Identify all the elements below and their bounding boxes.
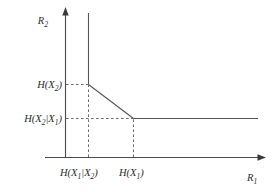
x-axis-label-sub: 1 bbox=[253, 177, 257, 186]
y-tick-label-h-x2-given-x1: H(X2|X1) bbox=[23, 113, 62, 127]
x-tick-1-prefix: H(X bbox=[118, 167, 137, 179]
x-tick-label-h-x1: H(X1) bbox=[118, 167, 144, 181]
y-axis-arrow-icon bbox=[62, 7, 68, 16]
x-tick-label-h-x1-given-x2: H(X1|X2) bbox=[59, 167, 98, 181]
y-axis-label-sub: 2 bbox=[44, 20, 48, 29]
guide-lines-group bbox=[66, 85, 134, 158]
x-tick-1-middle: ) bbox=[139, 167, 144, 179]
y-tick-0-middle: ) bbox=[58, 79, 63, 91]
x-axis-label: R1 bbox=[246, 172, 257, 186]
rate-region-figure: R2 R1 H(X2) H(X2|X1) H(X1|X2) H(X1) bbox=[0, 0, 275, 192]
y-tick-1-prefix: H(X bbox=[23, 113, 42, 125]
axes-group bbox=[45, 7, 266, 161]
y-tick-1-suffix: ) bbox=[58, 113, 63, 125]
y-axis-label: R2 bbox=[37, 15, 48, 29]
y-tick-0-prefix: H(X bbox=[36, 79, 55, 91]
y-tick-label-h-x2: H(X2) bbox=[36, 79, 62, 93]
x-tick-0-suffix: ) bbox=[93, 167, 98, 179]
x-axis-arrow-icon bbox=[258, 154, 267, 160]
x-tick-0-prefix: H(X bbox=[59, 167, 78, 179]
boundary-diagonal-segment bbox=[89, 85, 134, 119]
rate-region-boundary bbox=[89, 13, 259, 119]
